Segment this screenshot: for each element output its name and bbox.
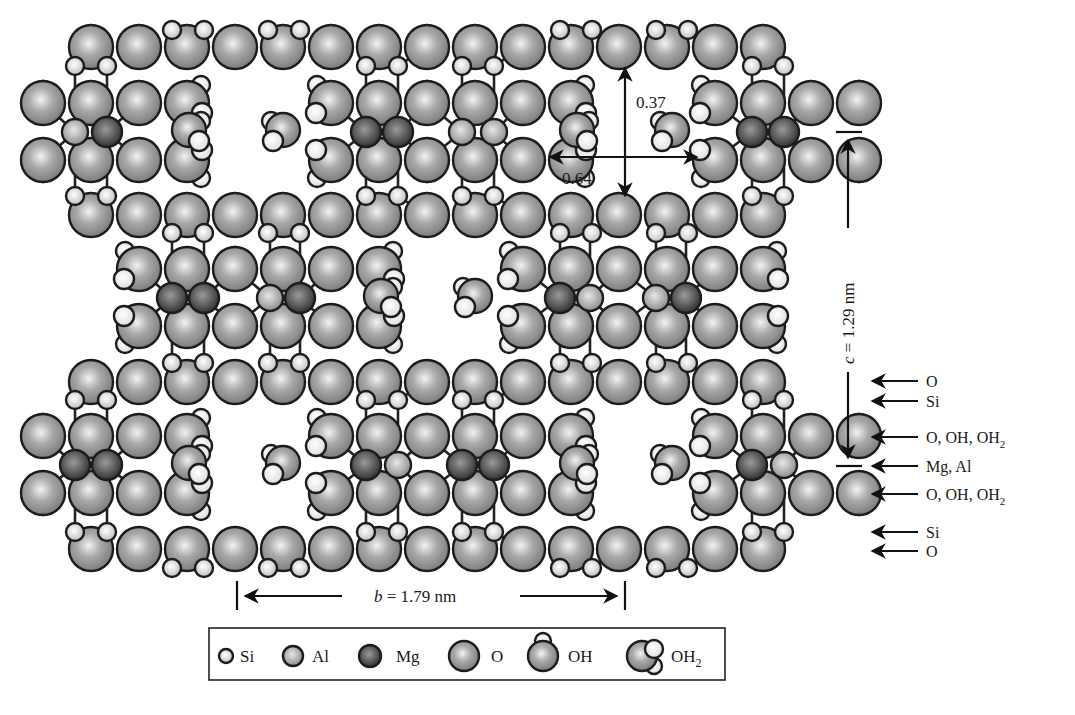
si-atom-icon bbox=[679, 559, 697, 577]
o-atom-icon bbox=[117, 25, 161, 69]
si-atom-icon bbox=[66, 391, 84, 409]
si-atom-icon bbox=[485, 523, 503, 541]
o-atom-icon bbox=[309, 527, 353, 571]
si-atom-icon bbox=[453, 187, 471, 205]
o-atom-icon bbox=[449, 641, 479, 671]
mg-atom-icon bbox=[671, 283, 701, 313]
channel-width-label: 0.64 bbox=[562, 169, 592, 188]
o-atom-icon bbox=[405, 527, 449, 571]
si-atom-icon bbox=[485, 57, 503, 75]
o-atom-icon bbox=[21, 81, 65, 125]
o-atom-icon bbox=[309, 360, 353, 404]
si-atom-icon bbox=[583, 224, 601, 242]
o-atom-icon bbox=[693, 193, 737, 237]
water-molecule-icon bbox=[690, 409, 737, 458]
si-atom-icon bbox=[163, 354, 181, 372]
o-atom-icon bbox=[21, 138, 65, 182]
mg-atom-icon bbox=[92, 117, 122, 147]
water-molecule-icon bbox=[306, 471, 353, 520]
si-atom-icon bbox=[679, 21, 697, 39]
legend-label-al: Al bbox=[312, 647, 329, 666]
chain-lower-mid bbox=[66, 354, 793, 409]
mg-atom-icon bbox=[737, 450, 767, 480]
si-atom-icon bbox=[743, 523, 761, 541]
si-atom-icon bbox=[775, 57, 793, 75]
si-atom-icon bbox=[647, 354, 665, 372]
o-atom-icon bbox=[597, 193, 641, 237]
si-atom-icon bbox=[357, 187, 375, 205]
ribbon-mid-right bbox=[498, 242, 788, 353]
mg-atom-icon bbox=[479, 450, 509, 480]
si-atom-icon bbox=[647, 21, 665, 39]
si-atom-icon bbox=[389, 57, 407, 75]
zeolitic-water-icon bbox=[454, 278, 492, 317]
o-atom-icon bbox=[501, 25, 545, 69]
si-atom-icon bbox=[551, 559, 569, 577]
water-molecule-icon bbox=[690, 138, 737, 187]
ribbon-bot-right bbox=[690, 409, 881, 520]
si-atom-icon bbox=[163, 559, 181, 577]
h-atom-icon bbox=[189, 131, 209, 151]
o-atom-icon bbox=[837, 81, 881, 125]
ribbon-mid-left bbox=[114, 242, 404, 353]
o-atom-icon bbox=[405, 193, 449, 237]
si-atom-icon bbox=[357, 57, 375, 75]
si-atom-icon bbox=[259, 354, 277, 372]
layer-label-1: Si bbox=[926, 393, 940, 410]
si-atom-icon bbox=[259, 21, 277, 39]
hydroxyl-icon bbox=[837, 81, 881, 125]
zeolitic-water-icon bbox=[262, 112, 300, 151]
water-molecule-icon bbox=[498, 242, 545, 291]
h-atom-icon bbox=[652, 131, 672, 151]
o-atom-icon bbox=[213, 527, 257, 571]
h-atom-icon bbox=[768, 306, 788, 326]
o-atom-icon bbox=[501, 360, 545, 404]
si-atom-icon bbox=[453, 523, 471, 541]
zeolitic-water-icon bbox=[262, 445, 300, 484]
o-atom-icon bbox=[693, 304, 737, 348]
o-atom-icon bbox=[693, 25, 737, 69]
mg-atom-icon bbox=[351, 450, 381, 480]
o-atom-icon bbox=[309, 304, 353, 348]
hydroxyl-icon bbox=[405, 471, 449, 515]
h-atom-icon bbox=[189, 464, 209, 484]
o-atom-icon bbox=[501, 81, 545, 125]
hydroxyl-icon bbox=[837, 138, 881, 182]
o-atom-icon bbox=[309, 247, 353, 291]
si-atom-icon bbox=[743, 57, 761, 75]
o-atom-icon bbox=[309, 193, 353, 237]
water-molecule-icon bbox=[306, 409, 353, 458]
si-atom-icon bbox=[98, 523, 116, 541]
layer-label-3: Mg, Al bbox=[926, 458, 972, 476]
mg-atom-icon bbox=[737, 117, 767, 147]
si-atom-icon bbox=[551, 354, 569, 372]
hydroxyl-icon bbox=[405, 414, 449, 458]
zeolitic-water-icon bbox=[651, 112, 689, 151]
si-atom-icon bbox=[259, 559, 277, 577]
si-atom-icon bbox=[259, 224, 277, 242]
layer-label-6: O bbox=[926, 543, 938, 560]
si-atom-icon bbox=[98, 57, 116, 75]
legend-label-si: Si bbox=[240, 647, 254, 666]
channel-height-label: 0.37 bbox=[636, 93, 666, 112]
al-atom-icon bbox=[577, 285, 603, 311]
h-atom-icon bbox=[577, 464, 597, 484]
water-molecule-icon bbox=[741, 304, 788, 353]
o-atom-icon bbox=[501, 414, 545, 458]
chain-bottom bbox=[66, 523, 793, 577]
o-atom-icon bbox=[501, 527, 545, 571]
o-atom-icon bbox=[117, 81, 161, 125]
h-atom-icon bbox=[306, 436, 326, 456]
water-molecule-icon bbox=[114, 304, 161, 353]
chain-top bbox=[66, 21, 793, 75]
c-axis-label: c = 1.29 nm bbox=[839, 283, 858, 364]
mg-atom-icon bbox=[285, 283, 315, 313]
si-atom-icon bbox=[195, 21, 213, 39]
water-molecule-icon bbox=[114, 242, 161, 291]
si-atom-icon bbox=[775, 187, 793, 205]
o-atom-icon bbox=[117, 138, 161, 182]
si-atom-icon bbox=[389, 187, 407, 205]
al-atom-icon bbox=[481, 119, 507, 145]
h-atom-icon bbox=[577, 131, 597, 151]
si-atom-icon bbox=[98, 187, 116, 205]
